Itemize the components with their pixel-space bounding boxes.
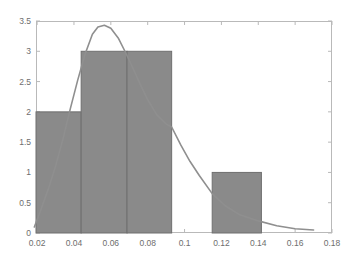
x-tick-label: 0.1: [179, 239, 191, 248]
histogram-figure: 0.020.040.060.080.10.120.140.160.18 00.5…: [0, 0, 347, 268]
y-tick-label: 0.5: [19, 198, 31, 207]
x-tick-label: 0.02: [29, 239, 46, 248]
x-tick-label: 0.14: [250, 239, 267, 248]
x-tick-label: 0.12: [213, 239, 230, 248]
x-tick-label: 0.08: [139, 239, 156, 248]
x-tick-label: 0.18: [324, 239, 341, 248]
y-tick-label: 1: [26, 168, 31, 177]
y-tick-label: 3.5: [19, 17, 31, 26]
y-tick-label: 2.5: [19, 77, 31, 86]
plot-area: [36, 21, 332, 233]
y-tick-label: 0: [26, 229, 31, 238]
y-tick-label: 1.5: [19, 138, 31, 147]
x-tick-label: 0.04: [66, 239, 83, 248]
x-tick-label: 0.16: [287, 239, 304, 248]
y-tick-label: 3: [26, 47, 31, 56]
y-tick-label: 2: [26, 108, 31, 117]
x-tick-label: 0.06: [103, 239, 120, 248]
